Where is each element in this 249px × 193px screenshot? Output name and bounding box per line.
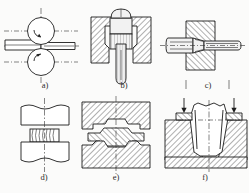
panel-f-label: f) [202, 172, 208, 182]
panel-f-blank-holder-left [176, 113, 192, 120]
panel-f-die-base [165, 157, 247, 168]
panel-b-punch-stem [110, 18, 132, 34]
panel-a-upper-roll [28, 18, 55, 45]
panel-c-label: c) [205, 80, 212, 90]
panel-a-label: a) [42, 80, 49, 90]
panel-f-blank-holder-right [226, 113, 242, 120]
figure-canvas: a) b) c) [0, 0, 249, 193]
panel-b-label: b) [120, 80, 127, 90]
panel-d-label: d) [40, 172, 47, 182]
panel-e-label: e) [113, 172, 120, 182]
forming-processes-figure: a) b) c) [0, 0, 249, 193]
panel-a-lower-roll [28, 49, 55, 76]
